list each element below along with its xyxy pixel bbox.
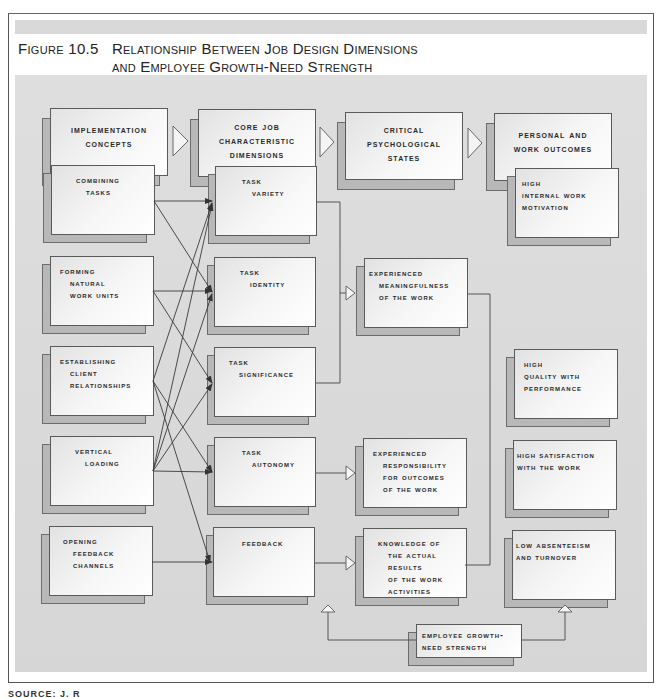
header-band (15, 20, 647, 34)
source-note: SOURCE: J. R (8, 689, 81, 698)
figure-title: Relationship Between Job Design Dimensio… (112, 40, 418, 76)
figure-number: Figure 10.5 (18, 40, 99, 57)
figure-title-line-2: and Employee Growth-Need Strength (112, 58, 418, 76)
figure-title-line-1: Relationship Between Job Design Dimensio… (112, 40, 418, 58)
